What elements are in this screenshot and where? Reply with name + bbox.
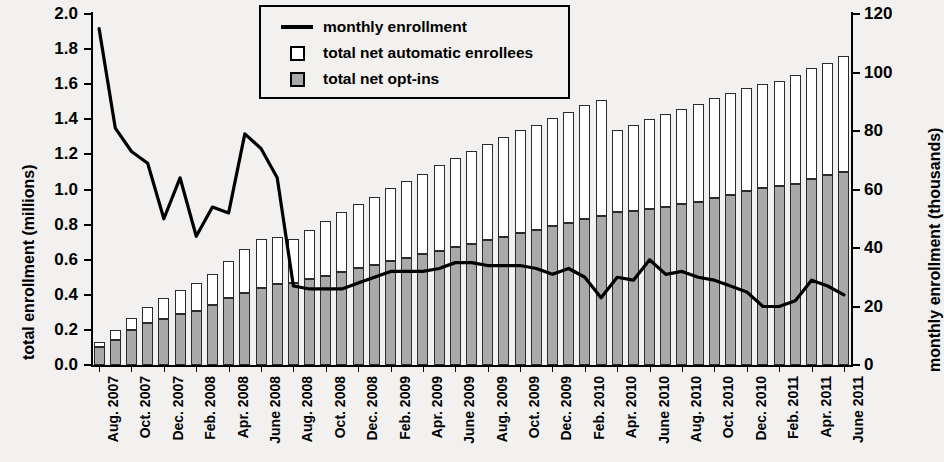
x-axis-tick-label: Aug. 2007 <box>105 376 121 442</box>
y-axis-left-tick <box>84 48 91 50</box>
x-axis-tick <box>520 367 521 372</box>
legend-item-opt-ins: total net opt-ins <box>279 66 568 92</box>
y-axis-left-tick-label: 0.4 <box>54 286 78 303</box>
x-axis-tick-label: Feb. 2009 <box>397 376 413 440</box>
y-axis-left-tick <box>84 329 91 331</box>
legend-item-automatic-enrollees: total net automatic enrollees <box>279 40 568 66</box>
x-axis-tick-label: June 2011 <box>850 376 866 443</box>
x-axis-tick <box>391 367 392 372</box>
y-axis-left-tick-label: 1.8 <box>54 40 78 57</box>
x-axis-tick <box>455 367 456 372</box>
y-axis-right-tick-label: 0 <box>864 356 873 373</box>
y-axis-right-title: monthly enrollment (thousands) <box>926 128 944 372</box>
y-axis-left-tick-label: 1.4 <box>54 110 78 127</box>
x-axis-tick-label: Apr. 2011 <box>818 376 834 438</box>
x-axis-tick <box>164 367 165 372</box>
x-axis-tick <box>293 367 294 372</box>
y-axis-left-tick <box>84 153 91 155</box>
y-axis-right-tick <box>853 189 860 191</box>
x-axis-tick-label: Aug. 2009 <box>494 376 510 442</box>
x-axis-tick <box>131 367 132 372</box>
y-axis-left-tick <box>84 259 91 261</box>
y-axis-right-tick-label: 40 <box>864 239 883 256</box>
x-axis-tick-label: Dec. 2009 <box>558 376 574 441</box>
x-axis-tick <box>229 367 230 372</box>
x-axis-tick <box>812 367 813 372</box>
x-axis-tick <box>488 367 489 372</box>
y-axis-right-tick-label: 20 <box>864 298 883 315</box>
y-axis-left-tick-label: 0.2 <box>54 321 78 338</box>
y-axis-left-tick-label: 1.2 <box>54 145 78 162</box>
y-axis-left-tick <box>84 13 91 15</box>
x-axis-tick <box>747 367 748 372</box>
line-key-icon <box>279 25 315 29</box>
y-axis-right-tick <box>853 72 860 74</box>
x-axis-tick <box>682 367 683 372</box>
x-axis-tick <box>261 367 262 372</box>
y-axis-right-tick-label: 100 <box>864 64 892 81</box>
x-axis-tick <box>650 367 651 372</box>
x-axis-tick-label: Dec. 2008 <box>364 376 380 441</box>
x-axis-tick <box>196 367 197 372</box>
y-axis-left-tick-label: 0.6 <box>54 251 78 268</box>
x-axis-tick <box>326 367 327 372</box>
x-axis-tick-label: Apr. 2009 <box>429 376 445 438</box>
legend-label-opt-ins: total net opt-ins <box>323 70 439 88</box>
x-axis-tick <box>617 367 618 372</box>
y-axis-right-tick <box>853 306 860 308</box>
x-axis-tick <box>844 367 845 372</box>
x-axis-tick-label: Apr. 2008 <box>235 376 251 438</box>
y-axis-right-tick <box>853 130 860 132</box>
x-axis-tick-label: Feb. 2011 <box>785 376 801 439</box>
x-axis-tick-label: Aug. 2008 <box>299 376 315 442</box>
x-axis-tick <box>552 367 553 372</box>
y-axis-left-tick-label: 2.0 <box>54 5 78 22</box>
y-axis-left-tick <box>84 189 91 191</box>
x-axis-tick-label: Aug. 2010 <box>688 376 704 442</box>
x-axis-tick-label: Dec. 2010 <box>753 376 769 441</box>
x-axis-tick <box>99 367 100 372</box>
x-axis-tick <box>423 367 424 372</box>
x-axis-tick-label: Feb. 2010 <box>591 376 607 440</box>
x-axis-tick-label: Feb. 2008 <box>202 376 218 440</box>
x-axis-tick <box>358 367 359 372</box>
y-axis-right-tick <box>853 13 860 15</box>
gray-box-key-icon <box>279 72 315 87</box>
x-axis-tick-label: Dec. 2007 <box>170 376 186 441</box>
y-axis-right-tick <box>853 247 860 249</box>
y-axis-right-tick <box>853 364 860 366</box>
x-axis-tick-label: Oct. 2009 <box>526 376 542 438</box>
white-box-key-icon <box>279 46 315 61</box>
y-axis-left-tick <box>84 83 91 85</box>
x-axis-line <box>91 365 853 367</box>
x-axis-tick-label: June 2008 <box>267 376 283 444</box>
x-axis-tick-label: June 2009 <box>461 376 477 444</box>
legend-item-monthly-enrollment: monthly enrollment <box>279 14 568 40</box>
x-axis-tick <box>779 367 780 372</box>
y-axis-left-tick-label: 1.6 <box>54 75 78 92</box>
y-axis-left-tick-label: 0.0 <box>54 356 78 373</box>
y-axis-left-tick <box>84 364 91 366</box>
x-axis-tick <box>585 367 586 372</box>
x-axis-tick-label: Oct. 2010 <box>720 376 736 438</box>
y-axis-left-tick <box>84 118 91 120</box>
y-axis-right-tick-label: 60 <box>864 181 883 198</box>
x-axis-tick <box>714 367 715 372</box>
legend-label-automatic-enrollees: total net automatic enrollees <box>323 44 533 62</box>
x-axis-tick-label: Oct. 2007 <box>137 376 153 438</box>
chart-legend: monthly enrollment total net automatic e… <box>259 5 570 99</box>
x-axis-tick-label: June 2010 <box>656 376 672 444</box>
chart-figure: total enrollment (millions) monthly enro… <box>0 0 944 462</box>
y-axis-left-tick-label: 0.8 <box>54 216 78 233</box>
legend-label-monthly-enrollment: monthly enrollment <box>323 18 467 36</box>
x-axis-tick-label: Apr. 2010 <box>623 376 639 438</box>
y-axis-left-tick <box>84 224 91 226</box>
y-axis-left-tick <box>84 294 91 296</box>
y-axis-right-tick-label: 80 <box>864 122 883 139</box>
y-axis-left-title: total enrollment (millions) <box>20 164 38 360</box>
x-axis-tick-label: Oct. 2008 <box>332 376 348 438</box>
y-axis-right-tick-label: 120 <box>864 5 892 22</box>
y-axis-left-tick-label: 1.0 <box>54 181 78 198</box>
